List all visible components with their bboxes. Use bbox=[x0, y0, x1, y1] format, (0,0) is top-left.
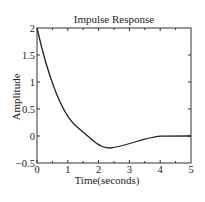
impulse-response-chart: Impulse Response 0 1 2 3 4 5 −0.5 0 0.5 … bbox=[0, 0, 205, 202]
chart-title: Impulse Response bbox=[74, 13, 154, 25]
svg-text:1: 1 bbox=[30, 77, 35, 88]
x-axis-label: Time(seconds) bbox=[75, 174, 140, 187]
svg-text:−0.5: −0.5 bbox=[16, 158, 35, 169]
impulse-curve bbox=[37, 28, 191, 148]
svg-text:4: 4 bbox=[158, 164, 164, 175]
y-axis-label: Amplitude bbox=[10, 73, 22, 120]
svg-text:2: 2 bbox=[30, 23, 35, 34]
svg-text:0: 0 bbox=[30, 131, 35, 142]
plot-frame bbox=[37, 28, 191, 163]
svg-text:0: 0 bbox=[34, 164, 39, 175]
y-ticks bbox=[37, 55, 191, 136]
svg-text:1.5: 1.5 bbox=[22, 50, 35, 61]
svg-text:5: 5 bbox=[188, 164, 193, 175]
svg-text:0.5: 0.5 bbox=[22, 104, 35, 115]
svg-text:1: 1 bbox=[65, 164, 70, 175]
